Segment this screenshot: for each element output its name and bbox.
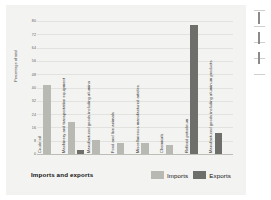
- legend-swatch-exports: [193, 171, 206, 179]
- plot-area: Crude oilMachinery and transportation eq…: [37, 22, 233, 155]
- category-group: Manufactured goods including aluminum pr…: [209, 22, 234, 155]
- chart-title: Imports and exports: [31, 171, 93, 178]
- legend-item-exports: Exports: [193, 171, 231, 179]
- legend-label-exports: Exports: [209, 172, 231, 179]
- y-axis-tick-label: 40: [32, 87, 36, 91]
- y-axis-tick-label: 8: [34, 140, 36, 144]
- category-group: Crude oil: [37, 22, 62, 155]
- y-axis-tick-label: 56: [32, 60, 36, 64]
- x-axis-category-label: Miscellaneous manufactured articles: [135, 85, 139, 153]
- y-axis-tick-labels: 08162432404856647280: [23, 22, 36, 155]
- legend-swatch-imports: [151, 171, 164, 179]
- x-axis-category-label: Refined petroleum: [184, 119, 188, 153]
- y-axis-tick-label: 16: [32, 127, 36, 131]
- category-group: Refined petroleum: [184, 22, 209, 155]
- legend: ImportsExports: [151, 171, 231, 179]
- category-group: Chemicals: [160, 22, 185, 155]
- bar-imports: [43, 85, 51, 155]
- category-group: Manufactured goods including alumina: [86, 22, 111, 155]
- x-axis-category-label: Chemicals: [160, 133, 164, 153]
- y-axis-tick-label: 24: [32, 113, 36, 117]
- y-axis-tick-label: 0: [34, 153, 36, 157]
- x-axis-category-label: Manufactured goods including alumina: [86, 81, 90, 153]
- bar-exports: [190, 25, 198, 155]
- page-edge-decoration: [253, 2, 266, 80]
- y-axis-tick-label: 64: [32, 47, 36, 51]
- x-axis-line: [37, 154, 233, 155]
- legend-item-imports: Imports: [151, 171, 188, 179]
- bar-exports: [215, 133, 223, 155]
- x-axis-category-label: Food and live animals: [111, 112, 115, 153]
- y-axis-title: Percentage of total: [15, 38, 19, 94]
- y-axis-tick-label: 72: [32, 34, 36, 38]
- figure-background: Percentage of total 08162432404856647280…: [9, 8, 243, 192]
- y-axis-tick-label: 32: [32, 100, 36, 104]
- bar-imports: [92, 140, 100, 155]
- figure-frame: Percentage of total 08162432404856647280…: [6, 5, 246, 195]
- x-axis-category-label: Manufactured goods including aluminum pr…: [209, 60, 213, 153]
- y-axis-tick-label: 80: [32, 20, 36, 24]
- bar-imports: [68, 122, 76, 155]
- category-group: Food and live animals: [111, 22, 136, 155]
- y-axis-tick-label: 48: [32, 73, 36, 77]
- legend-label-imports: Imports: [167, 172, 188, 179]
- category-group: Miscellaneous manufactured articles: [135, 22, 160, 155]
- category-group: Machinery and transportation equipment: [62, 22, 87, 155]
- x-axis-category-label: Machinery and transportation equipment: [62, 78, 66, 153]
- x-axis-category-label: Crude oil: [37, 136, 41, 153]
